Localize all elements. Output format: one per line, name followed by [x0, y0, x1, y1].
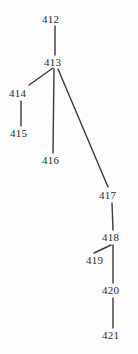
tree-edge-n413-n416 — [53, 69, 54, 153]
tree-node-label-417: 417 — [99, 190, 116, 201]
tree-node-label-418: 418 — [102, 232, 119, 243]
edge-layer — [0, 0, 138, 354]
tree-diagram: 412413414415416417418419420421 — [0, 0, 138, 354]
tree-node-label-414: 414 — [9, 88, 26, 99]
tree-edge-n418-n419 — [94, 245, 111, 253]
tree-node-label-415: 415 — [10, 128, 27, 139]
tree-node-label-419: 419 — [86, 255, 103, 266]
tree-node-label-413: 413 — [44, 57, 61, 68]
tree-edge-n417-n418 — [112, 203, 113, 230]
tree-node-label-412: 412 — [42, 14, 59, 25]
tree-node-label-421: 421 — [102, 330, 119, 341]
tree-node-label-420: 420 — [102, 285, 119, 296]
tree-edge-n413-n417 — [58, 69, 108, 187]
edges-group — [21, 26, 113, 328]
tree-edge-n413-n414 — [29, 68, 53, 85]
tree-node-label-416: 416 — [42, 155, 59, 166]
